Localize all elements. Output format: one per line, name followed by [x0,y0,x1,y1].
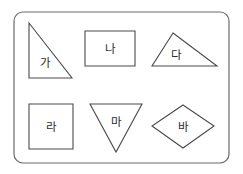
shape-label-da: 다 [171,48,182,62]
shape-label-ma: 마 [111,115,122,129]
shape-label-ga: 가 [40,56,51,70]
shapes-worksheet-figure: 가 나 다 라 마 바 [0,0,243,174]
shape-canvas: 가 나 다 라 마 바 [0,0,243,174]
shape-label-ra: 라 [46,120,57,134]
shape-label-ba: 바 [178,120,189,134]
shape-label-na: 나 [105,42,116,56]
shape-group-na: 나 [85,31,135,66]
shape-group-ra: 라 [29,104,73,149]
